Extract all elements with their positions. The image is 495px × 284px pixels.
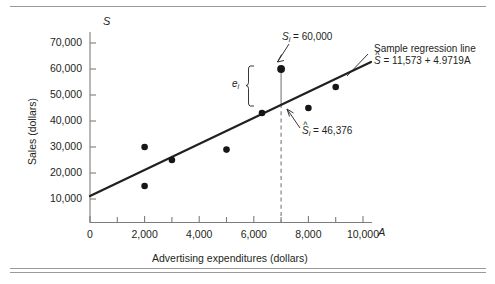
x-axis-title: Advertising expenditures (dollars) [152,252,308,264]
residual-subscript: i [238,82,240,91]
equation-hat-accent: ^ [374,51,381,60]
y-axis-variable: S [103,15,110,28]
data-point [332,84,339,91]
y-tick-label: 10,000 [28,192,82,204]
data-point [169,157,176,164]
data-point [305,105,312,112]
x-tick-label: 0 [62,228,118,240]
data-point [141,144,148,151]
observed-label-arrowhead [278,55,285,63]
y-axis-ticks [90,43,96,199]
fitted-value-annotation: ^Si = 46,376 [302,125,352,137]
residual-annotation: ei [232,78,239,90]
regression-caption: Sample regression line [374,43,476,55]
x-axis-ticks [90,216,363,222]
data-point [259,110,266,117]
fitted-value: = 46,376 [310,125,352,136]
x-tick-label: 10,000 [335,228,391,240]
residual-brace [246,66,254,106]
y-axis-title: Sales (dollars) [26,98,38,165]
figure-container: S A 70,000 60,000 50,000 40,000 30,000 2… [0,0,495,284]
observed-value: = 60,000 [290,31,332,42]
y-tick-label: 20,000 [28,166,82,178]
observed-symbol: S [282,31,289,42]
fitted-label-arrow [287,109,300,128]
data-point-highlight [277,65,285,73]
data-point [141,183,148,190]
data-point [223,146,230,153]
fitted-label-arrowhead [287,109,294,117]
x-tick-label: 8,000 [280,228,336,240]
residual-symbol: e [232,78,238,89]
fitted-hat-accent: ^ [302,121,309,130]
observed-value-annotation: Si = 60,000 [282,31,332,43]
x-tick-label: 4,000 [171,228,227,240]
x-tick-label: 6,000 [226,228,282,240]
y-tick-label: 60,000 [28,62,82,74]
regression-equation: ^S = 11,573 + 4.9719A [374,55,471,67]
y-tick-label: 70,000 [28,36,82,48]
equation-rhs: = 11,573 + 4.9719A [381,55,471,66]
x-tick-label: 2,000 [117,228,173,240]
